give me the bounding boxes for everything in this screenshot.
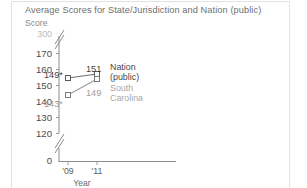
series-nation-public-line — [68, 74, 97, 78]
y-tick-label: 300 — [22, 29, 52, 39]
data-label-nation-09: 149* — [44, 70, 63, 80]
data-label-nation-11: 151 — [86, 64, 101, 74]
y-tick-label: 130 — [22, 113, 52, 123]
series-south-carolina-marker-11 — [95, 77, 100, 82]
series-south-carolina-marker-09 — [66, 93, 71, 98]
legend-item-nation-public-line2: (public) — [110, 72, 180, 82]
legend-item-south-carolina-line2: Carolina — [110, 93, 180, 103]
y-tick-label: 120 — [22, 129, 52, 139]
y-tick-label: 170 — [22, 49, 52, 59]
x-tick-label: '09 — [56, 166, 80, 176]
y-tick-label: 150 — [22, 81, 52, 91]
chart-screenshot: Average Scores for State/Jurisdiction an… — [0, 0, 307, 188]
x-axis-title: Year — [52, 178, 112, 188]
series-nation-public-marker-09 — [66, 76, 71, 81]
y-tick-label: 0 — [22, 156, 52, 166]
data-label-south-carolina-09: 143* — [44, 99, 63, 109]
data-label-south-carolina-11: 149 — [86, 88, 101, 98]
legend-item-south-carolina-line1: South — [110, 83, 180, 93]
chart-legend: Nation (public) South Carolina — [110, 62, 180, 104]
x-tick-label: '11 — [85, 166, 109, 176]
legend-item-nation-public-line1: Nation — [110, 62, 180, 72]
